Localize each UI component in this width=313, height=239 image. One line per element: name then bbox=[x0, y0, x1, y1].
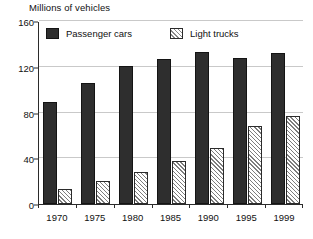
chart-legend: Passenger cars Light trucks bbox=[38, 22, 303, 44]
bar-passenger-cars-1995 bbox=[233, 58, 247, 204]
legend-label-passenger-cars: Passenger cars bbox=[66, 28, 132, 39]
x-axis-tick-label: 1975 bbox=[84, 212, 105, 223]
x-axis-tick-mark bbox=[76, 205, 77, 208]
y-axis-tick-label: 80 bbox=[23, 108, 34, 119]
bar-passenger-cars-1999 bbox=[271, 53, 285, 204]
gridline bbox=[39, 157, 303, 158]
x-axis-tick-label: 1980 bbox=[122, 212, 143, 223]
gridline bbox=[39, 66, 303, 67]
y-axis-tick-label: 120 bbox=[18, 62, 34, 73]
bar-light-trucks-1980 bbox=[134, 172, 148, 204]
bar-passenger-cars-1970 bbox=[43, 102, 57, 204]
gridline bbox=[39, 112, 303, 113]
x-axis-tick-mark bbox=[265, 205, 266, 208]
x-axis-tick-label: 1970 bbox=[46, 212, 67, 223]
legend-item-passenger-cars: Passenger cars bbox=[46, 28, 132, 39]
x-axis-tick-label: 1990 bbox=[198, 212, 219, 223]
bar-light-trucks-1995 bbox=[248, 126, 262, 204]
bar-light-trucks-1990 bbox=[210, 148, 224, 204]
legend-item-light-trucks: Light trucks bbox=[170, 28, 239, 39]
x-axis-tick-mark bbox=[227, 205, 228, 208]
bar-light-trucks-1970 bbox=[58, 189, 72, 204]
chart-axis-title: Millions of vehicles bbox=[29, 2, 110, 13]
x-axis-tick-label: 1985 bbox=[160, 212, 181, 223]
bar-light-trucks-1985 bbox=[172, 161, 186, 204]
bar-chart: Millions of vehicles 04080120160 Passeng… bbox=[0, 0, 313, 239]
legend-swatch-passenger-cars bbox=[46, 28, 59, 39]
x-axis-tick-mark bbox=[152, 205, 153, 208]
x-axis-tick-mark bbox=[189, 205, 190, 208]
x-axis-tick-label: 1999 bbox=[273, 212, 294, 223]
legend-swatch-light-trucks bbox=[170, 28, 183, 39]
bar-passenger-cars-1980 bbox=[119, 66, 133, 204]
bar-passenger-cars-1975 bbox=[81, 83, 95, 204]
x-axis-tick-mark bbox=[38, 205, 39, 208]
bar-passenger-cars-1985 bbox=[157, 59, 171, 204]
y-axis-tick-label: 160 bbox=[18, 17, 34, 28]
y-axis: 04080120160 bbox=[0, 0, 34, 239]
bar-light-trucks-1999 bbox=[286, 116, 300, 204]
x-axis-tick-mark bbox=[302, 205, 303, 208]
legend-label-light-trucks: Light trucks bbox=[190, 28, 239, 39]
bar-passenger-cars-1990 bbox=[195, 52, 209, 204]
x-axis-tick-mark bbox=[114, 205, 115, 208]
x-axis-tick-label: 1995 bbox=[236, 212, 257, 223]
gridline bbox=[39, 20, 303, 21]
x-axis: 1970197519801985199019951999 bbox=[38, 205, 303, 235]
y-axis-tick-label: 40 bbox=[23, 154, 34, 165]
plot-area bbox=[38, 22, 303, 205]
bar-light-trucks-1975 bbox=[96, 181, 110, 204]
